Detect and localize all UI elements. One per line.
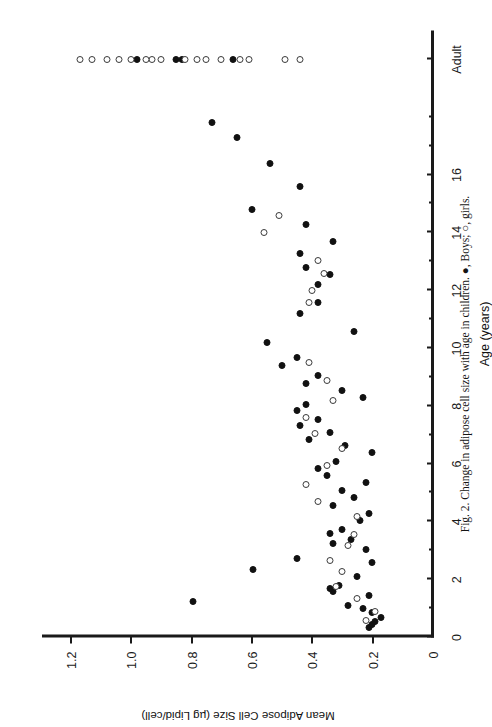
data-point-boy bbox=[293, 353, 300, 360]
data-point-boy bbox=[326, 271, 333, 278]
data-point-boy bbox=[369, 558, 376, 565]
data-point-girl bbox=[311, 430, 318, 437]
data-point-boy bbox=[363, 479, 370, 486]
data-point-boy bbox=[302, 379, 309, 386]
data-point-boy bbox=[266, 159, 273, 166]
data-point-girl bbox=[143, 55, 150, 62]
data-point-girl bbox=[314, 498, 321, 505]
data-point-boy bbox=[296, 183, 303, 190]
y-tick bbox=[191, 636, 193, 643]
data-point-girl bbox=[372, 608, 379, 615]
data-point-boy bbox=[278, 362, 285, 369]
data-point-girl bbox=[323, 376, 330, 383]
figure-caption: Fig. 2. Change in adipose cell size with… bbox=[452, 0, 478, 727]
data-point-boy bbox=[360, 605, 367, 612]
x-tick bbox=[429, 548, 434, 550]
x-tick bbox=[429, 433, 434, 435]
data-point-girl bbox=[314, 256, 321, 263]
y-tick bbox=[130, 636, 132, 643]
data-point-boy bbox=[326, 428, 333, 435]
data-point-boy bbox=[134, 55, 141, 62]
x-tick bbox=[427, 230, 434, 232]
x-tick bbox=[429, 606, 434, 608]
data-point-boy bbox=[296, 421, 303, 428]
data-point-girl bbox=[115, 55, 122, 62]
data-point-girl bbox=[302, 480, 309, 487]
data-point-girl bbox=[354, 594, 361, 601]
data-point-girl bbox=[363, 616, 370, 623]
x-tick bbox=[429, 201, 434, 203]
data-point-girl bbox=[158, 55, 165, 62]
data-point-girl bbox=[320, 269, 327, 276]
data-point-girl bbox=[281, 55, 288, 62]
y-tick bbox=[372, 636, 374, 643]
x-tick bbox=[427, 404, 434, 406]
data-point-boy bbox=[363, 545, 370, 552]
data-point-boy bbox=[330, 238, 337, 245]
x-tick bbox=[427, 519, 434, 521]
data-point-girl bbox=[351, 531, 358, 538]
data-point-boy bbox=[326, 529, 333, 536]
data-point-girl bbox=[302, 414, 309, 421]
data-point-girl bbox=[305, 298, 312, 305]
data-point-boy bbox=[263, 339, 270, 346]
x-tick bbox=[427, 635, 434, 637]
data-point-boy bbox=[339, 525, 346, 532]
y-tick-label: 0.4 bbox=[306, 651, 320, 668]
data-point-girl bbox=[333, 583, 340, 590]
x-tick bbox=[429, 115, 434, 117]
data-point-boy bbox=[296, 310, 303, 317]
data-point-boy bbox=[314, 415, 321, 422]
data-point-boy bbox=[351, 327, 358, 334]
y-tick-label: 0.2 bbox=[367, 651, 381, 668]
x-tick bbox=[429, 317, 434, 319]
data-point-girl bbox=[218, 55, 225, 62]
x-axis-line bbox=[431, 30, 434, 637]
data-point-boy bbox=[345, 602, 352, 609]
y-tick-label: 0.6 bbox=[246, 651, 260, 668]
data-point-boy bbox=[366, 509, 373, 516]
data-point-boy bbox=[209, 119, 216, 126]
y-axis-line bbox=[42, 634, 434, 637]
data-point-girl bbox=[275, 212, 282, 219]
data-point-girl bbox=[345, 541, 352, 548]
y-tick-label: 1.2 bbox=[65, 651, 79, 668]
data-point-girl bbox=[296, 55, 303, 62]
data-point-boy bbox=[378, 613, 385, 620]
data-point-girl bbox=[326, 557, 333, 564]
y-tick bbox=[70, 636, 72, 643]
data-point-girl bbox=[339, 444, 346, 451]
data-point-girl bbox=[305, 359, 312, 366]
data-point-boy bbox=[333, 457, 340, 464]
data-point-boy bbox=[330, 540, 337, 547]
data-point-boy bbox=[369, 449, 376, 456]
data-point-boy bbox=[296, 249, 303, 256]
data-point-girl bbox=[103, 55, 110, 62]
data-point-boy bbox=[314, 464, 321, 471]
y-tick-label: 0.8 bbox=[186, 651, 200, 668]
data-point-boy bbox=[248, 206, 255, 213]
data-point-girl bbox=[76, 55, 83, 62]
data-point-boy bbox=[302, 220, 309, 227]
y-axis-title: Mean Adipose Cell Size (µg Lipid/cell) bbox=[141, 709, 334, 721]
x-tick bbox=[427, 577, 434, 579]
x-tick bbox=[429, 490, 434, 492]
data-point-boy bbox=[330, 502, 337, 509]
data-point-girl bbox=[323, 462, 330, 469]
data-point-boy bbox=[314, 372, 321, 379]
x-tick bbox=[427, 173, 434, 175]
y-tick bbox=[311, 636, 313, 643]
plot-area: 0246810121416Adult 00.20.40.60.81.01.2 A… bbox=[42, 30, 434, 637]
data-point-girl bbox=[203, 55, 210, 62]
data-point-boy bbox=[173, 55, 180, 62]
data-point-girl bbox=[182, 55, 189, 62]
figure-caption-text: Fig. 2. Change in adipose cell size with… bbox=[459, 195, 471, 531]
data-point-girl bbox=[88, 55, 95, 62]
data-point-boy bbox=[250, 566, 257, 573]
data-point-girl bbox=[127, 55, 134, 62]
data-point-girl bbox=[149, 55, 156, 62]
data-point-boy bbox=[351, 493, 358, 500]
data-point-girl bbox=[194, 55, 201, 62]
